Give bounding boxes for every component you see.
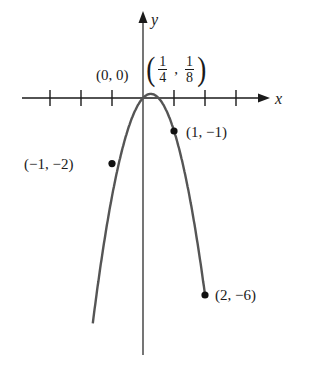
vertex-comma: , <box>174 61 178 78</box>
fraction-one-quarter: 1 4 <box>158 54 167 85</box>
numerator: 1 <box>185 54 194 70</box>
origin-label: (0, 0) <box>96 68 129 83</box>
point-label-1-neg1: (1, −1) <box>186 125 227 140</box>
fraction-one-eighth: 1 8 <box>185 54 194 85</box>
vertex-label: ( 1 4 , 1 8 ) <box>145 52 207 86</box>
x-axis-arrow-icon <box>258 94 270 103</box>
x-axis-label: x <box>275 91 282 107</box>
vertex-close-paren: ) <box>197 52 206 86</box>
numerator: 1 <box>158 54 167 70</box>
denominator: 4 <box>159 70 166 85</box>
point-2-neg6 <box>201 291 208 298</box>
denominator: 8 <box>186 70 193 85</box>
y-axis-arrow-icon <box>139 11 148 23</box>
vertex-open-paren: ( <box>146 52 155 86</box>
point-neg1-neg2 <box>108 160 115 167</box>
point-1-neg1 <box>170 127 177 134</box>
point-label-2-neg6: (2, −6) <box>215 288 256 303</box>
point-label-neg1-neg2: (−1, −2) <box>24 157 73 172</box>
y-axis-label: y <box>151 12 158 28</box>
